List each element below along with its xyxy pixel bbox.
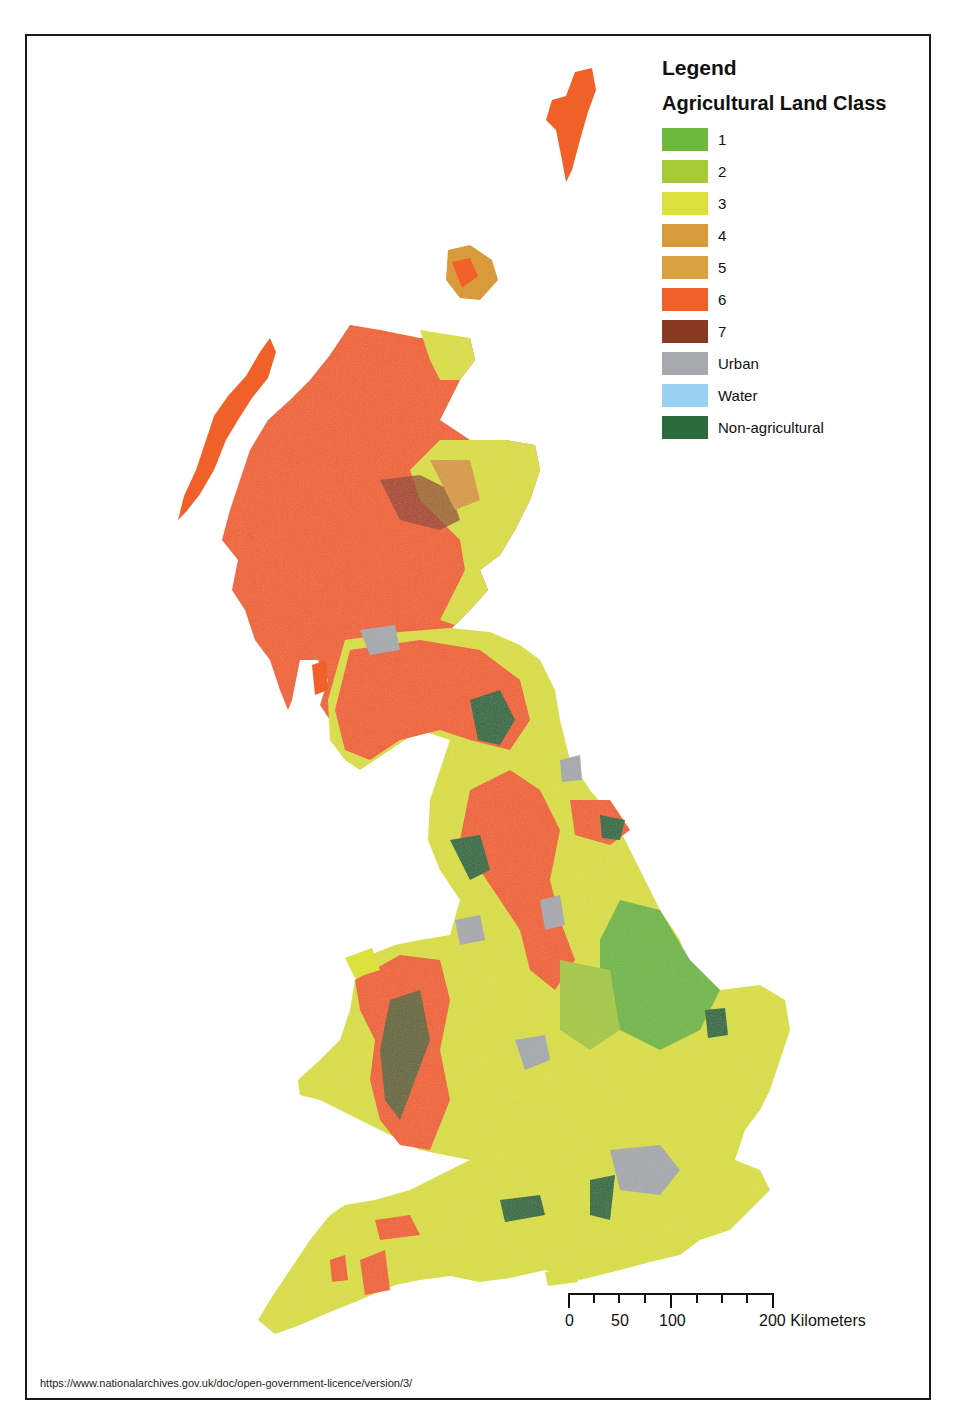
legend-item: 3 — [662, 187, 887, 219]
legend-item: 4 — [662, 219, 887, 251]
legend-swatch — [662, 192, 708, 215]
legend-items: 1234567UrbanWaterNon-agricultural — [662, 123, 887, 443]
legend-label: Water — [718, 387, 757, 404]
scale-bar: 0 50 100 200 Kilometers — [567, 1290, 877, 1340]
legend-label: 6 — [718, 291, 726, 308]
legend-label: Urban — [718, 355, 759, 372]
legend-item: 6 — [662, 283, 887, 315]
legend-title: Legend — [662, 56, 887, 80]
legend-swatch — [662, 352, 708, 375]
legend-swatch — [662, 224, 708, 247]
licence-text: https://www.nationalarchives.gov.uk/doc/… — [40, 1377, 412, 1389]
scale-label-50: 50 — [611, 1312, 629, 1330]
isle-of-arran — [312, 660, 328, 695]
legend-item: Non-agricultural — [662, 411, 887, 443]
legend-item: Urban — [662, 347, 887, 379]
legend-label: 7 — [718, 323, 726, 340]
legend-item: 7 — [662, 315, 887, 347]
legend-item: Water — [662, 379, 887, 411]
legend-item: 1 — [662, 123, 887, 155]
legend-swatch — [662, 320, 708, 343]
legend-item: 5 — [662, 251, 887, 283]
scale-label-200: 200 Kilometers — [759, 1312, 866, 1330]
scale-label-0: 0 — [565, 1312, 574, 1330]
england-wales — [258, 625, 790, 1334]
legend: Legend Agricultural Land Class 1234567Ur… — [662, 56, 887, 443]
legend-label: 5 — [718, 259, 726, 276]
shetland-islands — [546, 68, 596, 182]
legend-subtitle: Agricultural Land Class — [662, 92, 887, 115]
legend-swatch — [662, 128, 708, 151]
scale-label-100: 100 — [659, 1312, 686, 1330]
legend-swatch — [662, 416, 708, 439]
legend-label: 4 — [718, 227, 726, 244]
orkney-islands — [446, 245, 498, 300]
legend-label: Non-agricultural — [718, 419, 824, 436]
legend-label: 2 — [718, 163, 726, 180]
legend-swatch — [662, 256, 708, 279]
legend-swatch — [662, 384, 708, 407]
legend-label: 3 — [718, 195, 726, 212]
legend-item: 2 — [662, 155, 887, 187]
legend-swatch — [662, 160, 708, 183]
legend-label: 1 — [718, 131, 726, 148]
scale-bar-ruler — [567, 1290, 877, 1312]
legend-swatch — [662, 288, 708, 311]
